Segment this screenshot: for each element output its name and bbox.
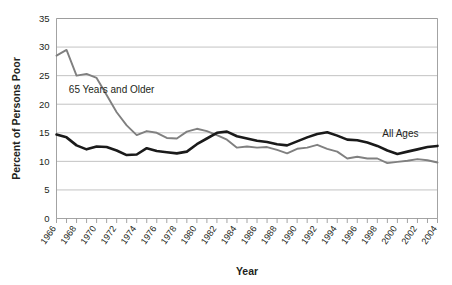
series-line-all-ages (57, 132, 438, 155)
x-tick-label-1966: 1966 (38, 224, 58, 246)
x-axis-ticks (57, 219, 438, 224)
data-series (57, 50, 438, 163)
x-axis-tick-labels: 1966196819701972197419761978198019821984… (38, 224, 439, 246)
x-tick-label-1986: 1986 (239, 224, 259, 246)
x-tick-label-2000: 2000 (379, 224, 399, 246)
x-tick-label-1968: 1968 (59, 224, 79, 246)
x-tick-label-1994: 1994 (319, 224, 339, 246)
y-axis-title: Percent of Persons Poor (10, 57, 22, 180)
y-tick-label-30: 30 (39, 41, 50, 52)
y-tick-label-5: 5 (44, 184, 49, 195)
chart-canvas: 05101520253035 1966196819701972197419761… (0, 0, 452, 285)
x-axis-title: Year (236, 265, 258, 277)
plot-frame (57, 19, 438, 219)
series-label-all-ages: All Ages (382, 128, 418, 139)
y-tick-label-20: 20 (39, 99, 50, 110)
poverty-rate-line-chart: 05101520253035 1966196819701972197419761… (0, 0, 452, 285)
x-tick-label-2004: 2004 (419, 224, 439, 246)
x-tick-label-1974: 1974 (119, 224, 139, 246)
x-tick-label-1992: 1992 (299, 224, 319, 246)
series-label-65-years-and-older: 65 Years and Older (69, 84, 155, 95)
x-tick-label-1990: 1990 (279, 224, 299, 246)
y-tick-label-25: 25 (39, 70, 50, 81)
y-tick-label-0: 0 (44, 213, 49, 224)
x-tick-label-1984: 1984 (219, 224, 239, 246)
x-tick-label-1976: 1976 (139, 224, 159, 246)
x-tick-label-1978: 1978 (159, 224, 179, 246)
x-tick-label-1982: 1982 (199, 224, 219, 246)
x-tick-label-1996: 1996 (339, 224, 359, 246)
x-tick-label-1998: 1998 (359, 224, 379, 246)
gridlines (57, 19, 438, 190)
x-tick-label-2002: 2002 (399, 224, 419, 246)
x-tick-label-1972: 1972 (99, 224, 119, 246)
x-tick-label-1980: 1980 (179, 224, 199, 246)
x-tick-label-1988: 1988 (259, 224, 279, 246)
x-tick-label-1970: 1970 (79, 224, 99, 246)
series-annotations: 65 Years and OlderAll Ages (69, 84, 419, 139)
y-tick-label-15: 15 (39, 127, 50, 138)
y-axis-tick-labels: 05101520253035 (39, 13, 50, 224)
y-tick-label-35: 35 (39, 13, 50, 24)
y-tick-label-10: 10 (39, 156, 50, 167)
